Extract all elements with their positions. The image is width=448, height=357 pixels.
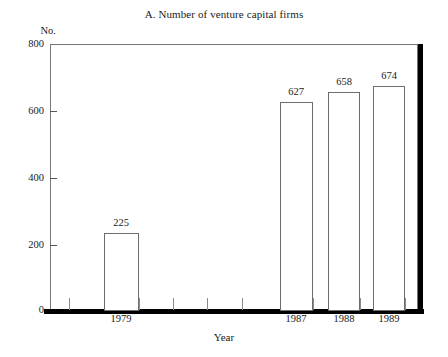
y-tick-label-200: 200 <box>4 239 44 250</box>
bar-value-1987: 627 <box>271 86 321 97</box>
y-tick-mark-400 <box>50 178 57 179</box>
y-tick-label-0: 0 <box>4 304 44 315</box>
x-tick-mark-10 <box>360 298 361 310</box>
x-tick-mark-3 <box>139 298 140 310</box>
chart-figure: A. Number of venture capital firms No. 8… <box>0 0 448 357</box>
x-tick-mark-6 <box>242 298 243 310</box>
bar-value-1988: 658 <box>319 76 369 87</box>
x-tick-mark-8 <box>313 298 314 310</box>
bar-value-1989: 674 <box>364 70 414 81</box>
bar-value-1979: 225 <box>96 217 146 228</box>
x-tick-mark-1 <box>69 298 70 310</box>
bar-1979 <box>104 233 139 311</box>
y-tick-mark-600 <box>50 111 57 112</box>
x-tick-label-1989: 1989 <box>364 313 414 324</box>
bar-1987 <box>280 102 313 311</box>
bar-1988 <box>328 92 360 311</box>
x-axis-title: Year <box>0 331 448 343</box>
chart-title: A. Number of venture capital firms <box>0 8 448 20</box>
y-axis-right-line <box>418 44 423 314</box>
x-tick-label-1979: 1979 <box>96 313 146 324</box>
x-tick-mark-5 <box>207 298 208 310</box>
x-tick-mark-12 <box>405 298 406 310</box>
y-tick-label-600: 600 <box>4 105 44 116</box>
bar-1989 <box>373 86 405 311</box>
y-tick-mark-200 <box>50 245 57 246</box>
x-tick-label-1988: 1988 <box>319 313 369 324</box>
x-tick-label-1987: 1987 <box>271 313 321 324</box>
y-axis-title: No. <box>22 25 56 36</box>
y-tick-label-400: 400 <box>4 172 44 183</box>
y-tick-label-800: 800 <box>4 38 44 49</box>
x-tick-mark-4 <box>173 298 174 310</box>
